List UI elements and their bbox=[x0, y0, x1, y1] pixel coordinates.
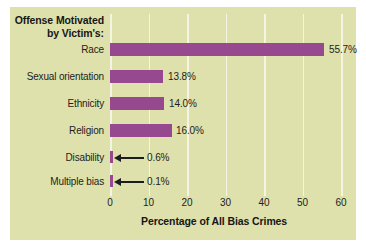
x-axis-title: Percentage of All Bias Crimes bbox=[141, 215, 287, 227]
bar-ethnicity bbox=[110, 97, 164, 110]
arrow-shaft bbox=[120, 181, 144, 183]
bar-multiple-bias bbox=[110, 175, 113, 187]
gridline-60 bbox=[341, 14, 343, 196]
callout-arrow-disability bbox=[114, 153, 144, 162]
xtick-30: 30 bbox=[214, 197, 238, 208]
bar-disability bbox=[110, 151, 113, 163]
xtick-10: 10 bbox=[137, 197, 161, 208]
category-label-sexual-orientation: Sexual orientation bbox=[0, 71, 104, 82]
value-label-religion: 16.0% bbox=[176, 125, 204, 136]
chart-legend-title: Offense Motivated by Victim's: bbox=[8, 14, 104, 39]
category-label-multiple-bias: Multiple bias bbox=[0, 176, 104, 187]
value-label-ethnicity: 14.0% bbox=[169, 98, 197, 109]
bar-religion bbox=[110, 124, 172, 137]
bar-sexual-orientation bbox=[110, 70, 163, 83]
value-label-disability: 0.6% bbox=[147, 152, 169, 163]
xtick-20: 20 bbox=[175, 197, 199, 208]
gridline-30 bbox=[226, 14, 228, 196]
arrow-shaft bbox=[120, 157, 144, 159]
category-label-ethnicity: Ethnicity bbox=[0, 98, 104, 109]
callout-arrow-multiple-bias bbox=[114, 177, 144, 186]
xtick-50: 50 bbox=[291, 197, 315, 208]
category-label-race: Race bbox=[0, 44, 104, 55]
gridline-40 bbox=[264, 14, 266, 196]
category-label-religion: Religion bbox=[0, 125, 104, 136]
value-label-sexual-orientation: 13.8% bbox=[168, 71, 196, 82]
bar-race bbox=[110, 43, 324, 56]
bias-crimes-bar-chart: Offense Motivated by Victim's: Race Sexu… bbox=[0, 0, 366, 251]
xtick-60: 60 bbox=[329, 197, 353, 208]
xtick-40: 40 bbox=[252, 197, 276, 208]
gridline-50 bbox=[303, 14, 305, 196]
value-label-race: 55.7% bbox=[329, 44, 357, 55]
category-label-disability: Disability bbox=[0, 152, 104, 163]
value-label-multiple-bias: 0.1% bbox=[147, 176, 169, 187]
legend-title-line-1: Offense Motivated bbox=[8, 14, 104, 27]
xtick-0: 0 bbox=[98, 197, 122, 208]
legend-title-line-2: by Victim's: bbox=[8, 27, 104, 40]
